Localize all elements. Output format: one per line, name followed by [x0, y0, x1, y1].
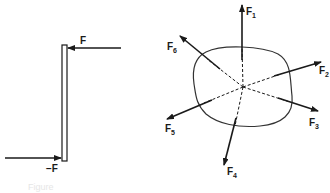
label-f6: F6 [167, 41, 177, 54]
label-f2: F2 [319, 65, 329, 78]
interior-dashed-lines [204, 47, 290, 126]
label-f5: F5 [165, 123, 175, 136]
force-arrow-f5 [167, 100, 212, 119]
force-arrow-f2 [274, 62, 321, 76]
body-diagram: F1 F2 F3 F4 F5 F6 [165, 5, 329, 179]
label-f1: F1 [246, 6, 256, 19]
force-arrow-f6 [180, 36, 220, 69]
force-arrow-f3 [278, 98, 318, 111]
rod [62, 45, 67, 161]
label-f4: F4 [227, 166, 237, 179]
label-top-force: F [80, 35, 86, 46]
label-f3: F3 [309, 117, 319, 130]
figure-canvas: F −F Figure F1 F2 F3 F4 F5 F6 [0, 0, 330, 193]
label-bottom-force: −F [46, 163, 58, 174]
figure-caption: Figure [28, 182, 54, 192]
rod-diagram: F −F [5, 35, 121, 174]
